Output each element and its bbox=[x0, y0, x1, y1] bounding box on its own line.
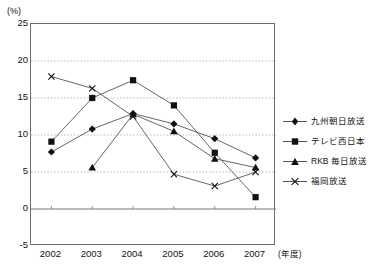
x-tick-label: 2004 bbox=[122, 249, 143, 259]
legend: 九州朝日放送 テレビ西日本 RKB 毎日放送 福岡放送 bbox=[283, 116, 369, 187]
x-tick-label: 2006 bbox=[203, 249, 224, 259]
square-marker-icon bbox=[283, 136, 307, 147]
y-tick-label: 5 bbox=[2, 166, 28, 176]
y-tick-label: 15 bbox=[2, 92, 28, 102]
plot-area bbox=[30, 23, 275, 245]
y-tick-label: 20 bbox=[2, 55, 28, 65]
legend-label: 福岡放送 bbox=[311, 176, 347, 187]
y-axis-tick-labels: 25 20 15 10 5 0 -5 bbox=[0, 23, 28, 245]
series-layer bbox=[48, 73, 260, 200]
legend-item-fukuoka-hoso[interactable]: 福岡放送 bbox=[283, 176, 369, 187]
y-tick-label: 10 bbox=[2, 129, 28, 139]
x-tick-label: 2003 bbox=[81, 249, 102, 259]
triangle-marker-icon bbox=[283, 156, 307, 167]
chart-figure: (%) 25 20 15 10 5 0 -5 2002 2003 2004 20… bbox=[0, 0, 369, 269]
y-tick-label: 0 bbox=[2, 203, 28, 213]
x-axis-unit-label: (年度) bbox=[278, 249, 302, 259]
diamond-marker-icon bbox=[283, 116, 307, 127]
legend-item-tv-nishinippon[interactable]: テレビ西日本 bbox=[283, 136, 369, 147]
legend-label: RKB 毎日放送 bbox=[311, 156, 367, 167]
legend-label: テレビ西日本 bbox=[311, 136, 365, 147]
y-tick-label: -5 bbox=[2, 240, 28, 250]
gridlines bbox=[31, 61, 276, 172]
legend-item-rkb-mainichi[interactable]: RKB 毎日放送 bbox=[283, 156, 369, 167]
legend-label: 九州朝日放送 bbox=[311, 116, 365, 127]
x-tick-label: 2007 bbox=[244, 249, 265, 259]
x-axis-tick-labels: 2002 2003 2004 2005 2006 2007 bbox=[30, 249, 275, 263]
x-tick-label: 2002 bbox=[40, 249, 61, 259]
cross-marker-icon bbox=[283, 176, 307, 187]
legend-item-kyushu-asahi[interactable]: 九州朝日放送 bbox=[283, 116, 369, 127]
y-tick-label: 25 bbox=[2, 18, 28, 28]
x-tick-label: 2005 bbox=[162, 249, 183, 259]
plot-svg bbox=[31, 24, 276, 246]
y-axis-unit-label: (%) bbox=[7, 6, 21, 16]
